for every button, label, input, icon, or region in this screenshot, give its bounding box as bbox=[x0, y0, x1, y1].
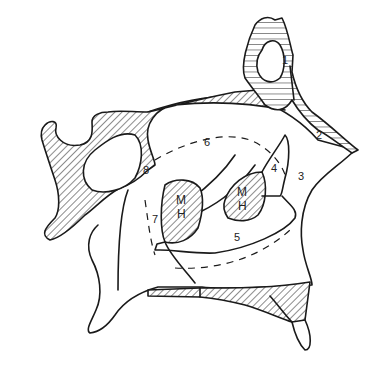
dashed-line-7 bbox=[145, 200, 155, 255]
frontal-bone bbox=[243, 18, 358, 153]
label-8: 8 bbox=[143, 164, 149, 176]
label-mh-right-h: H bbox=[238, 199, 247, 213]
inner-line bbox=[165, 242, 195, 283]
label-4: 4 bbox=[271, 162, 277, 174]
dashed-line-6 bbox=[155, 137, 286, 178]
label-mh-left-h: H bbox=[177, 207, 186, 221]
label-7: 7 bbox=[152, 213, 158, 225]
nasal-spine bbox=[292, 320, 310, 350]
label-5: 5 bbox=[234, 231, 240, 243]
label-mh-left-m: M bbox=[176, 193, 186, 207]
label-mh-right-m: M bbox=[237, 185, 247, 199]
label-3: 3 bbox=[298, 170, 304, 182]
region-7-boundary bbox=[118, 190, 128, 290]
label-2: 2 bbox=[316, 129, 322, 141]
label-1: 1 bbox=[282, 54, 288, 66]
label-6: 6 bbox=[204, 136, 210, 148]
anatomical-diagram: 1 2 3 4 5 6 7 8 M H M H bbox=[0, 0, 377, 373]
